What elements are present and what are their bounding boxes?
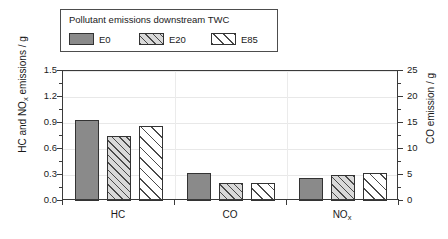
y-axis-left-title-subscript: x — [21, 97, 30, 101]
bar-nox-e85 — [363, 173, 387, 201]
legend-item-e20: E20 — [139, 32, 186, 46]
y-tick-left-0.9 — [57, 122, 62, 123]
y-tick-label-right-25: 25 — [407, 64, 418, 75]
chart-legend: Pollutant emissions downstream TWC E0 E2… — [60, 9, 278, 52]
y-axis-left-title: HC and NOx emissions / g — [17, 25, 30, 165]
y-tick-right-20 — [398, 96, 403, 97]
y-tick-label-right-15: 15 — [407, 116, 418, 127]
x-tick-2 — [286, 200, 287, 205]
y-tick-left-minor — [59, 187, 62, 188]
y-tick-right-5 — [398, 174, 403, 175]
x-tick-1 — [174, 200, 175, 205]
legend-title: Pollutant emissions downstream TWC — [69, 14, 229, 25]
y-tick-right-25 — [398, 70, 403, 71]
legend-swatch-e0 — [69, 33, 94, 45]
legend-item-e0: E0 — [69, 32, 111, 46]
category-separator-1 — [175, 71, 176, 199]
y-tick-left-1.5 — [57, 70, 62, 71]
y-tick-label-left-0.3: 0.3 — [44, 168, 57, 179]
y-tick-label-left-0.6: 0.6 — [44, 142, 57, 153]
legend-entries: E0 E20 E85 — [69, 32, 271, 48]
x-category-label-subscript: x — [348, 213, 352, 222]
y-tick-right-15 — [398, 122, 403, 123]
y-tick-left-0.3 — [57, 174, 62, 175]
plot-area — [62, 70, 398, 200]
legend-label-e20: E20 — [169, 34, 186, 45]
bar-hc-e20 — [107, 136, 131, 201]
gridline-0.9 — [63, 123, 397, 124]
y-tick-left-minor — [59, 135, 62, 136]
legend-label-e0: E0 — [99, 34, 111, 45]
y-tick-left-minor — [59, 109, 62, 110]
category-separator-2 — [287, 71, 288, 199]
bar-hc-e0 — [75, 120, 99, 201]
y-axis-left-title-tail: emissions / g — [17, 36, 28, 97]
y-tick-left-0.6 — [57, 148, 62, 149]
y-axis-right-title: CO emission / g — [425, 39, 436, 179]
y-tick-label-right-0: 0 — [407, 194, 412, 205]
x-tick-3 — [398, 200, 399, 205]
x-category-label-main: NO — [333, 209, 348, 220]
legend-swatch-e20 — [139, 33, 164, 45]
y-tick-label-left-1.5: 1.5 — [44, 64, 57, 75]
y-tick-label-left-0.9: 0.9 — [44, 116, 57, 127]
y-tick-left-1.2 — [57, 96, 62, 97]
x-category-label-main: HC — [111, 209, 125, 220]
bar-hc-e85 — [139, 126, 163, 201]
x-tick-0 — [62, 200, 63, 205]
y-tick-label-left-1.2: 1.2 — [44, 90, 57, 101]
x-category-label-main: CO — [223, 209, 238, 220]
y-tick-right-10 — [398, 148, 403, 149]
y-tick-label-right-20: 20 — [407, 90, 418, 101]
x-axis-line — [62, 199, 399, 200]
y-tick-right-minor — [398, 187, 401, 188]
y-tick-label-left-0.0: 0.0 — [44, 194, 57, 205]
y-tick-label-right-5: 5 — [407, 168, 412, 179]
y-tick-right-minor — [398, 83, 401, 84]
y-tick-right-minor — [398, 161, 401, 162]
x-category-label-nox: NOx — [286, 209, 398, 222]
gridline-1.5 — [63, 71, 397, 72]
legend-swatch-e85 — [211, 33, 236, 45]
bar-nox-e20 — [331, 175, 355, 201]
x-category-label-hc: HC — [62, 209, 174, 220]
x-category-label-co: CO — [174, 209, 286, 220]
bar-nox-e0 — [299, 178, 323, 201]
y-tick-left-minor — [59, 161, 62, 162]
y-tick-right-minor — [398, 109, 401, 110]
y-tick-left-minor — [59, 83, 62, 84]
y-tick-label-right-10: 10 — [407, 142, 418, 153]
gridline-1.2 — [63, 97, 397, 98]
y-tick-right-minor — [398, 135, 401, 136]
y-axis-left-title-main: HC and NO — [17, 101, 28, 153]
bar-co-e0 — [187, 173, 211, 201]
legend-item-e85: E85 — [211, 32, 258, 46]
legend-label-e85: E85 — [241, 34, 258, 45]
